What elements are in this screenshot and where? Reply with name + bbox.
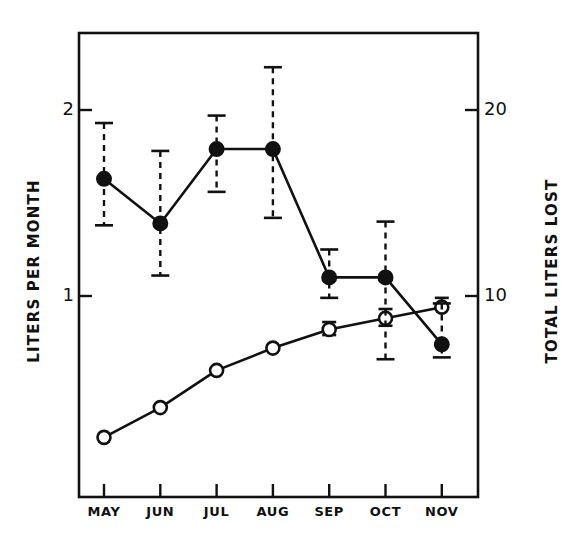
y-tick-label-right-20: 20: [484, 98, 507, 119]
chart-figure: LITERS PER MONTH TOTAL LITERS LOST 21 20…: [0, 0, 565, 548]
chart-background: [0, 0, 565, 548]
data-point: [379, 270, 393, 284]
x-tick-label-aug: AUG: [243, 504, 303, 519]
data-point: [98, 431, 111, 444]
x-tick-label-may: MAY: [74, 504, 134, 519]
data-point: [323, 323, 336, 336]
data-point: [210, 142, 224, 156]
y-axis-label-right: TOTAL LITERS LOST: [543, 151, 561, 391]
data-point: [435, 337, 449, 351]
x-tick-label-jun: JUN: [130, 504, 190, 519]
chart-plot-area: [0, 0, 565, 548]
data-point: [153, 216, 167, 230]
data-point: [97, 172, 111, 186]
y-tick-label-left-1: 1: [52, 284, 74, 305]
data-point: [154, 401, 167, 414]
data-point: [266, 142, 280, 156]
x-tick-label-nov: NOV: [412, 504, 472, 519]
y-axis-label-left: LITERS PER MONTH: [25, 151, 43, 391]
data-point: [322, 270, 336, 284]
x-tick-label-jul: JUL: [187, 504, 247, 519]
data-point: [266, 342, 279, 355]
y-tick-label-left-2: 2: [52, 98, 74, 119]
x-tick-label-oct: OCT: [356, 504, 416, 519]
x-tick-label-sep: SEP: [299, 504, 359, 519]
y-tick-label-right-10: 10: [484, 284, 507, 305]
data-point: [210, 364, 223, 377]
